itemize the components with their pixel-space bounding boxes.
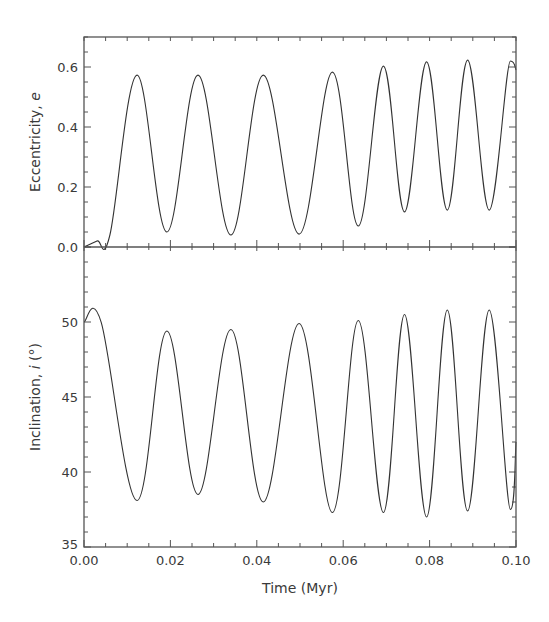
x-tick-label: 0.00 (70, 553, 99, 568)
x-tick-label: 0.04 (242, 553, 271, 568)
inclination-y-axis-label: Inclination, i (°) (27, 343, 43, 451)
eccentricity-curve (84, 60, 516, 249)
y-tick-label: 35 (61, 537, 78, 552)
y-tick-label: 50 (61, 315, 78, 330)
y-tick-label: 40 (61, 465, 78, 480)
x-tick-labels: 0.000.020.040.060.080.10 (70, 553, 531, 568)
y-tick-label: 0.0 (57, 240, 78, 255)
x-tick-label: 0.02 (156, 553, 185, 568)
chart-figure: 0.00.20.40.6 35404550 0.000.020.040.060.… (0, 0, 549, 622)
x-tick-label: 0.08 (415, 553, 444, 568)
y-tick-label: 0.6 (57, 60, 78, 75)
eccentricity-y-axis-label: Eccentricity, e (27, 92, 43, 192)
axis-ticks (84, 37, 516, 547)
inclination-y-tick-labels: 35404550 (61, 315, 78, 552)
y-tick-label: 45 (61, 390, 78, 405)
eccentricity-y-tick-labels: 0.00.20.40.6 (57, 60, 78, 255)
x-tick-label: 0.10 (502, 553, 531, 568)
x-axis-label: Time (Myr) (261, 580, 338, 596)
y-tick-label: 0.4 (57, 120, 78, 135)
plot-frame (84, 37, 516, 547)
inclination-curve (84, 308, 516, 517)
y-tick-label: 0.2 (57, 180, 78, 195)
x-tick-label: 0.06 (329, 553, 358, 568)
chart-svg: 0.00.20.40.6 35404550 0.000.020.040.060.… (0, 0, 549, 622)
